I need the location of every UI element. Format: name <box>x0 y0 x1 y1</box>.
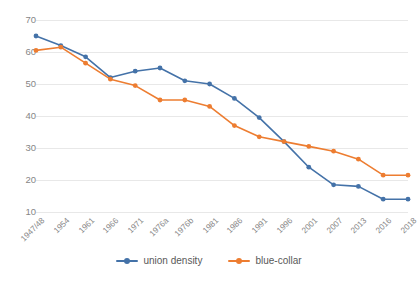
y-axis-tick-label: 70 <box>8 15 36 25</box>
series-line <box>36 47 408 175</box>
x-axis-tick-label: 1976a <box>148 216 170 238</box>
data-point <box>133 69 138 74</box>
legend-label: blue-collar <box>255 256 301 266</box>
x-axis-tick-label: 2001 <box>300 216 319 235</box>
x-axis-tick-label: 2007 <box>325 216 344 235</box>
legend-marker-icon <box>228 256 250 266</box>
data-point <box>406 173 411 178</box>
series-layer <box>36 20 408 212</box>
data-point <box>306 165 311 170</box>
x-axis-tick-label: 1954 <box>52 216 71 235</box>
data-point <box>83 54 88 59</box>
y-axis-tick-label: 40 <box>8 111 36 121</box>
data-point <box>257 134 262 139</box>
data-point <box>232 96 237 101</box>
data-point <box>207 104 212 109</box>
legend-marker-icon <box>116 256 138 266</box>
data-point <box>381 173 386 178</box>
y-axis-tick-label: 30 <box>8 143 36 153</box>
legend-label: union density <box>143 256 202 266</box>
x-axis-tick-label: 1947/48 <box>19 216 46 243</box>
x-axis-tick-label: 1976b <box>173 216 195 238</box>
y-axis-tick-label: 10 <box>8 207 36 217</box>
gridline <box>36 212 408 213</box>
data-point <box>282 139 287 144</box>
data-point <box>306 144 311 149</box>
data-point <box>158 66 163 71</box>
x-axis-tick-label: 1981 <box>201 216 220 235</box>
x-axis-tick-label: 1986 <box>226 216 245 235</box>
chart-legend: union densityblue-collar <box>0 256 418 266</box>
x-axis-tick-label: 2013 <box>350 216 369 235</box>
series-line <box>36 36 408 199</box>
data-point <box>58 45 63 50</box>
x-axis-tick-label: 1996 <box>275 216 294 235</box>
data-point <box>381 197 386 202</box>
legend-item[interactable]: union density <box>116 256 202 266</box>
data-point <box>34 48 39 53</box>
x-axis-tick-label: 1966 <box>102 216 121 235</box>
data-point <box>158 98 163 103</box>
data-point <box>182 78 187 83</box>
data-point <box>108 77 113 82</box>
data-point <box>83 61 88 66</box>
data-point <box>182 98 187 103</box>
legend-item[interactable]: blue-collar <box>228 256 301 266</box>
data-point <box>257 115 262 120</box>
data-point <box>207 82 212 87</box>
data-point <box>356 157 361 162</box>
data-point <box>331 182 336 187</box>
x-axis-tick-label: 1991 <box>250 216 269 235</box>
data-point <box>406 197 411 202</box>
x-axis-tick-label: 2018 <box>399 216 418 235</box>
x-axis-tick-label: 2016 <box>374 216 393 235</box>
y-axis-tick-label: 20 <box>8 175 36 185</box>
data-point <box>34 34 39 39</box>
x-axis-tick-label: 1961 <box>77 216 96 235</box>
data-point <box>232 123 237 128</box>
x-axis-tick-label: 1971 <box>126 216 145 235</box>
line-chart: 10203040506070 1947/48195419611966197119… <box>0 0 418 281</box>
data-point <box>356 184 361 189</box>
y-axis-tick-label: 50 <box>8 79 36 89</box>
data-point <box>331 149 336 154</box>
data-point <box>133 83 138 88</box>
y-axis-tick-label: 60 <box>8 47 36 57</box>
